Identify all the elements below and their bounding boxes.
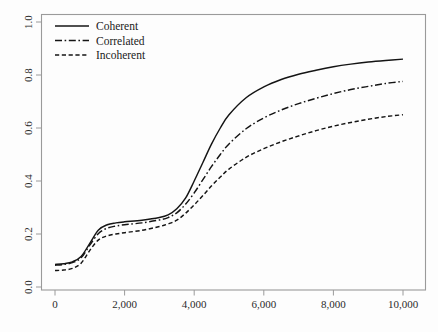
x-tick-label: 2,000 <box>112 298 137 310</box>
y-tick-label: 0.2 <box>22 227 34 241</box>
line-chart-plot: 02,0004,0006,0008,00010,000 0.00.20.40.6… <box>0 0 438 332</box>
x-tick-label: 6,000 <box>251 298 276 310</box>
chart-figure: 02,0004,0006,0008,00010,000 0.00.20.40.6… <box>0 0 438 332</box>
y-tick-label: 0.4 <box>22 174 34 188</box>
x-tick-label: 4,000 <box>182 298 207 310</box>
y-tick-label: 0.6 <box>22 121 34 135</box>
y-tick-label: 0.0 <box>22 280 34 294</box>
legend-label-correlated: Correlated <box>96 35 145 47</box>
y-tick-label: 1.0 <box>22 15 34 29</box>
x-tick-label: 0 <box>52 298 58 310</box>
legend-label-coherent: Coherent <box>96 20 139 32</box>
x-tick-label: 8,000 <box>321 298 346 310</box>
legend-label-incoherent: Incoherent <box>96 49 146 61</box>
y-tick-label: 0.8 <box>22 68 34 82</box>
plot-background <box>0 0 438 332</box>
x-tick-label: 10,000 <box>388 298 419 310</box>
